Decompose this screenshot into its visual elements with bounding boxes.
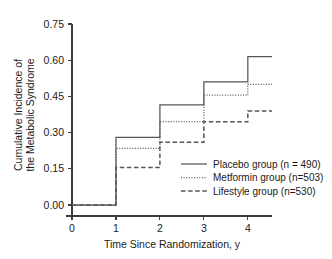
y-axis-title: Cumulative Incidence of the Metabolic Sy… xyxy=(12,58,36,171)
y-axis-title-line1: Cumulative Incidence of xyxy=(12,59,24,171)
y-tick-label: 0.45 xyxy=(44,90,65,102)
legend-label: Lifestyle group (n=530) xyxy=(213,186,316,197)
y-tick-label: 0.75 xyxy=(44,18,65,30)
y-tick-label: 0.30 xyxy=(44,126,65,138)
cumulative-incidence-step-chart: Cumulative Incidence of the Metabolic Sy… xyxy=(0,0,332,259)
y-axis-title-line2: the Metabolic Syndrome xyxy=(24,58,36,171)
y-axis-ticks: 0.000.150.300.450.600.75 xyxy=(44,18,72,211)
x-axis-ticks: 01234 xyxy=(69,216,251,234)
x-tick-label: 2 xyxy=(157,222,163,234)
x-tick-label: 3 xyxy=(201,222,207,234)
x-axis-title: Time Since Randomization, y xyxy=(104,238,241,250)
y-tick-label: 0.60 xyxy=(44,54,65,66)
chart-legend: Placebo group (n = 490)Metformin group (… xyxy=(181,159,323,197)
legend-label: Metformin group (n=503) xyxy=(213,172,323,183)
legend-label: Placebo group (n = 490) xyxy=(213,159,321,170)
y-tick-label: 0.00 xyxy=(44,199,65,211)
x-tick-label: 1 xyxy=(113,222,119,234)
chart-container: Cumulative Incidence of the Metabolic Sy… xyxy=(0,0,332,259)
x-tick-label: 4 xyxy=(245,222,251,234)
x-tick-label: 0 xyxy=(69,222,75,234)
y-tick-label: 0.15 xyxy=(44,162,65,174)
